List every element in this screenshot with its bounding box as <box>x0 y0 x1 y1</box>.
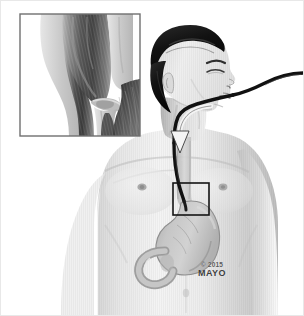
mayo-copyright: © 2015 MAYO <box>190 262 234 278</box>
mayo-wordmark: MAYO <box>190 269 234 278</box>
gastroesophageal-junction-detail <box>1 1 304 316</box>
inset-layer <box>1 1 303 315</box>
medical-illustration-figure: © 2015 MAYO <box>0 0 304 316</box>
